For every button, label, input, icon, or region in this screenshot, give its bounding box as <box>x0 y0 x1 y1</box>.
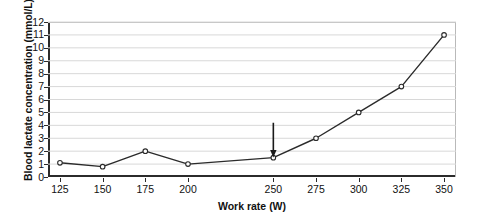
data-point <box>100 164 105 169</box>
x-tick-mark <box>273 178 274 182</box>
data-point <box>442 33 447 38</box>
y-tick-mark <box>44 35 48 36</box>
y-tick-label: 5 <box>22 107 44 118</box>
y-tick-label: 3 <box>22 133 44 144</box>
y-tick-label: 11 <box>22 29 44 40</box>
y-tick-label: 2 <box>22 146 44 157</box>
x-tick-label: 150 <box>83 184 123 195</box>
x-tick-label: 350 <box>424 184 464 195</box>
y-tick-label: 7 <box>22 81 44 92</box>
x-tick-mark <box>401 178 402 182</box>
y-tick-label: 12 <box>22 17 44 28</box>
data-point <box>314 136 319 141</box>
x-tick-mark <box>145 178 146 182</box>
x-tick-label: 125 <box>40 184 80 195</box>
y-tick-mark <box>44 125 48 126</box>
x-axis-title: Work rate (W) <box>48 200 456 212</box>
x-tick-label: 325 <box>381 184 421 195</box>
y-tick-mark <box>44 164 48 165</box>
data-point <box>186 162 191 167</box>
y-tick-label: 0 <box>22 172 44 183</box>
x-tick-label: 250 <box>253 184 293 195</box>
lactate-threshold-chart: Blood lactate concentration (mmol/L) 012… <box>0 0 486 224</box>
y-tick-mark <box>44 74 48 75</box>
x-tick-mark <box>359 178 360 182</box>
gridlines-group <box>48 22 456 164</box>
data-point <box>356 110 361 115</box>
data-line <box>60 35 444 167</box>
y-tick-mark <box>44 22 48 23</box>
data-point <box>399 84 404 89</box>
data-line-group <box>60 35 444 167</box>
x-tick-mark <box>316 178 317 182</box>
y-tick-mark <box>44 177 48 178</box>
x-tick-label: 300 <box>339 184 379 195</box>
y-tick-mark <box>44 151 48 152</box>
y-tick-label: 4 <box>22 120 44 131</box>
y-tick-mark <box>44 48 48 49</box>
y-tick-mark <box>44 138 48 139</box>
y-tick-label: 8 <box>22 68 44 79</box>
data-point <box>58 160 63 165</box>
y-tick-label: 9 <box>22 55 44 66</box>
y-tick-label: 1 <box>22 159 44 170</box>
y-tick-mark <box>44 112 48 113</box>
x-tick-mark <box>444 178 445 182</box>
annotations-group <box>270 123 276 158</box>
y-tick-label: 10 <box>22 42 44 53</box>
data-markers-group <box>58 33 447 169</box>
y-tick-mark <box>44 61 48 62</box>
x-tick-mark <box>60 178 61 182</box>
y-tick-mark <box>44 87 48 88</box>
x-tick-label: 200 <box>168 184 208 195</box>
data-point <box>143 149 148 154</box>
x-tick-label: 275 <box>296 184 336 195</box>
x-tick-mark <box>103 178 104 182</box>
x-tick-label: 175 <box>125 184 165 195</box>
x-tick-mark <box>188 178 189 182</box>
y-tick-label: 6 <box>22 94 44 105</box>
y-tick-mark <box>44 100 48 101</box>
